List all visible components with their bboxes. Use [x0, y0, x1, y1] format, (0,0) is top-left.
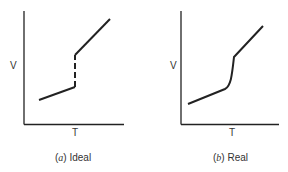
x-axis-label: T — [229, 128, 235, 138]
caption-text: Real — [227, 152, 248, 163]
real-curve — [188, 26, 263, 104]
high-branch — [75, 19, 110, 55]
x-axis-label: T — [72, 128, 78, 138]
caption-text: Ideal — [69, 152, 91, 163]
diagram-canvas — [0, 0, 288, 172]
y-axis-label: V — [170, 61, 177, 71]
y-axis-label: V — [10, 61, 17, 71]
caption-letter: a — [58, 152, 63, 163]
caption-ideal: (a) Ideal — [55, 153, 91, 163]
caption-real: (b) Real — [213, 153, 248, 163]
caption-letter: b — [216, 152, 221, 163]
panel-real — [181, 11, 279, 125]
panel-ideal — [24, 11, 124, 125]
low-branch — [39, 87, 75, 100]
